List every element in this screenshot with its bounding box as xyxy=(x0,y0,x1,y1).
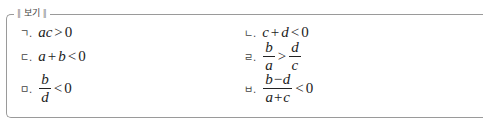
legend-title: 보기 xyxy=(24,8,40,18)
option-ga: ㄱ. ac>0 xyxy=(20,24,72,41)
option-label: ㄷ. xyxy=(20,49,32,64)
option-expr: b−d a+c < 0 xyxy=(262,72,313,105)
fraction: b−d a+c xyxy=(263,72,292,105)
option-expr: b d < 0 xyxy=(38,72,71,105)
option-expr: a+b<0 xyxy=(38,48,85,65)
option-label: ㄱ. xyxy=(20,25,32,40)
fraction: b a xyxy=(263,40,275,73)
fraction: b d xyxy=(39,72,51,105)
option-ma: ㅁ. b d < 0 xyxy=(20,72,72,105)
fraction: d c xyxy=(289,40,301,73)
option-label: ㅁ. xyxy=(20,81,32,96)
bogi-legend: ‖ 보기 ‖ xyxy=(14,6,50,19)
option-label: ㄹ. xyxy=(244,49,256,64)
option-na: ㄴ. c+d<0 xyxy=(244,24,309,41)
option-label: ㅂ. xyxy=(244,81,256,96)
legend-bar-left: ‖ xyxy=(17,9,21,18)
option-da: ㄷ. a+b<0 xyxy=(20,48,86,65)
legend-bar-right: ‖ xyxy=(43,9,47,18)
option-expr: ac>0 xyxy=(38,24,72,41)
option-ba: ㅂ. b−d a+c < 0 xyxy=(244,72,313,105)
option-expr: b a > d c xyxy=(262,40,301,73)
option-ra: ㄹ. b a > d c xyxy=(244,40,302,73)
option-label: ㄴ. xyxy=(244,25,256,40)
